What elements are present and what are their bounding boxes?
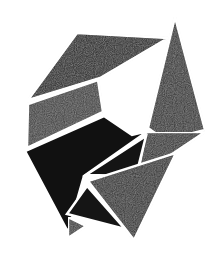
shape-group bbox=[25, 17, 205, 240]
tall-triangle-shape bbox=[148, 17, 205, 140]
artwork-svg bbox=[0, 0, 216, 262]
abstract-geometric-artwork bbox=[0, 0, 216, 262]
bottom-small-triangle-shape bbox=[68, 217, 86, 238]
